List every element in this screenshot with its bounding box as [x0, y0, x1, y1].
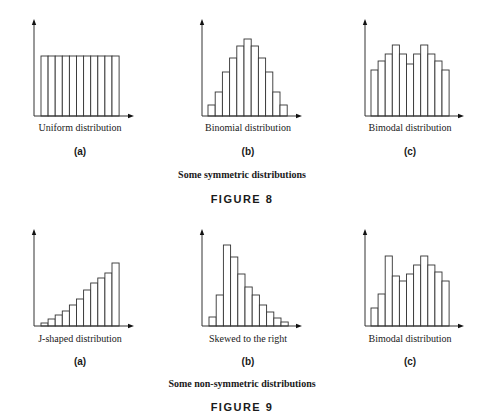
x-axis-arrow-icon — [296, 114, 302, 118]
histogram-bar — [385, 256, 392, 326]
histogram-bar — [421, 256, 428, 326]
panel-label-j-shaped: J-shaped distribution — [0, 333, 160, 344]
histogram-bar — [414, 265, 421, 326]
histogram-bar — [392, 276, 399, 326]
x-axis-arrow-icon — [458, 114, 464, 118]
panel-label-skewed-right: Skewed to the right — [168, 333, 328, 344]
y-axis-arrow-icon — [32, 229, 36, 235]
panel-letter-b: (b) — [228, 146, 268, 157]
histogram-bar — [280, 105, 287, 116]
panel-letter-a-2: (a) — [60, 356, 100, 367]
x-axis-arrow-icon — [128, 324, 134, 328]
histogram-bar — [407, 274, 414, 326]
histogram-6 — [363, 229, 464, 328]
histogram-bar — [105, 273, 112, 326]
histogram-bar — [62, 56, 69, 116]
histogram-bar — [421, 45, 428, 116]
histogram-bar — [105, 56, 112, 116]
histogram-bar — [55, 315, 62, 326]
histogram-bar — [244, 39, 251, 116]
histogram-bar — [266, 72, 273, 116]
panel-label-bimodal-2: Bimodal distribution — [330, 333, 484, 344]
x-axis-arrow-icon — [296, 324, 302, 328]
histogram-bar — [428, 54, 435, 116]
histogram-bar — [231, 257, 238, 326]
histogram-3 — [363, 19, 464, 118]
histogram-bar — [230, 58, 237, 116]
histogram-bar — [84, 56, 91, 116]
histogram-bar — [442, 70, 449, 116]
histogram-1 — [32, 19, 134, 118]
histogram-bar — [48, 56, 55, 116]
y-axis-arrow-icon — [363, 229, 367, 235]
histogram-bar — [77, 56, 84, 116]
histogram-bar — [392, 45, 399, 116]
histogram-bar — [273, 92, 280, 116]
y-axis-arrow-icon — [200, 19, 204, 25]
histogram-bar — [112, 56, 119, 116]
histogram-bar — [442, 281, 449, 326]
histogram-bar — [84, 290, 91, 326]
histogram-bar — [237, 46, 244, 116]
histogram-bar — [274, 318, 281, 326]
histogram-bar — [259, 305, 266, 326]
histogram-4 — [32, 229, 134, 328]
histogram-bar — [55, 56, 62, 116]
histogram-bar — [215, 92, 222, 116]
figure9-caption: Some non-symmetric distributions — [0, 378, 484, 389]
figure8-title: FIGURE 8 — [0, 193, 484, 205]
histogram-bar — [435, 272, 442, 326]
histogram-bar — [91, 56, 98, 116]
panel-label-uniform: Uniform distribution — [0, 122, 160, 133]
histogram-bar — [112, 263, 119, 326]
histogram-bar — [399, 281, 406, 326]
histogram-bar — [428, 265, 435, 326]
panel-letter-c: (c) — [390, 146, 430, 157]
histogram-bar — [91, 283, 98, 326]
histogram-bar — [245, 287, 252, 326]
histogram-bar — [399, 54, 406, 116]
histogram-bar — [223, 245, 230, 326]
histogram-bar — [216, 295, 223, 326]
y-axis-arrow-icon — [200, 229, 204, 235]
histogram-bar — [371, 70, 378, 116]
panel-letter-c-2: (c) — [390, 356, 430, 367]
histogram-bar — [41, 56, 48, 116]
y-axis-arrow-icon — [32, 19, 36, 25]
histogram-bar — [208, 105, 215, 116]
histogram-bar — [69, 305, 76, 326]
panel-letter-a: (a) — [60, 146, 100, 157]
histogram-bar — [98, 278, 105, 326]
histogram-bar — [378, 294, 385, 326]
y-axis-arrow-icon — [363, 19, 367, 25]
histogram-bar — [69, 56, 76, 116]
histogram-bar — [209, 317, 216, 326]
histogram-bar — [258, 58, 265, 116]
histogram-bar — [267, 312, 274, 326]
histogram-bar — [407, 64, 414, 116]
histogram-bar — [371, 308, 378, 326]
histogram-bar — [414, 54, 421, 116]
histogram-bar — [98, 56, 105, 116]
panel-letter-b-2: (b) — [228, 356, 268, 367]
figure9-title: FIGURE 9 — [0, 401, 484, 413]
histogram-bar — [77, 299, 84, 326]
histogram-2 — [200, 19, 302, 118]
histogram-bar — [238, 274, 245, 326]
histogram-bar — [378, 61, 385, 116]
figure8-caption: Some symmetric distributions — [0, 169, 484, 180]
histogram-bar — [281, 322, 288, 326]
panel-label-bimodal: Bimodal distribution — [330, 122, 484, 133]
histogram-bar — [435, 61, 442, 116]
histogram-bar — [252, 295, 259, 326]
histogram-bar — [251, 46, 258, 116]
histogram-5 — [200, 229, 302, 328]
histogram-bar — [222, 72, 229, 116]
x-axis-arrow-icon — [128, 114, 134, 118]
x-axis-arrow-icon — [458, 324, 464, 328]
panel-label-binomial: Binomial distribution — [168, 122, 328, 133]
histogram-bar — [385, 54, 392, 116]
histogram-canvas — [0, 0, 484, 416]
histogram-bar — [62, 311, 69, 326]
histogram-bar — [48, 319, 55, 326]
